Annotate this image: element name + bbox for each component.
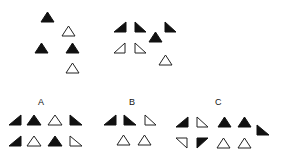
filled-triangle-icon — [8, 114, 22, 126]
filled-triangle-icon — [40, 11, 55, 23]
outline-triangle-icon — [113, 42, 126, 54]
outline-triangle-icon — [158, 54, 173, 66]
outline-triangle-icon — [134, 42, 147, 54]
outline-triangle-icon — [47, 114, 63, 126]
option-label-a: A — [38, 98, 44, 107]
option-label-c: C — [215, 98, 222, 107]
filled-triangle-icon — [103, 114, 117, 126]
filled-triangle-icon — [134, 21, 147, 33]
filled-triangle-icon — [175, 116, 189, 128]
option-label-b: B — [129, 98, 135, 107]
filled-triangle-icon — [237, 116, 252, 128]
outline-triangle-icon — [116, 134, 131, 146]
outline-triangle-icon — [144, 114, 157, 126]
outline-triangle-icon — [216, 137, 231, 149]
filled-triangle-icon — [69, 114, 83, 126]
outline-triangle-icon — [61, 25, 76, 37]
filled-triangle-icon — [196, 137, 209, 149]
filled-triangle-icon — [113, 21, 127, 33]
triangle-puzzle-diagram: A B C — [0, 0, 282, 159]
filled-triangle-icon — [26, 114, 42, 126]
outline-triangle-icon — [237, 137, 252, 149]
outline-triangle-icon — [65, 62, 80, 74]
outline-triangle-icon — [196, 116, 209, 128]
filled-triangle-icon — [148, 31, 163, 43]
filled-triangle-icon — [164, 21, 177, 33]
outline-triangle-icon — [175, 137, 188, 149]
filled-triangle-icon — [123, 114, 137, 126]
filled-triangle-icon — [65, 42, 80, 54]
outline-triangle-icon — [69, 135, 83, 147]
outline-triangle-icon — [137, 134, 152, 146]
filled-triangle-icon — [8, 135, 22, 147]
filled-triangle-icon — [47, 135, 63, 147]
filled-triangle-icon — [256, 124, 270, 136]
filled-triangle-icon — [217, 116, 232, 128]
filled-triangle-icon — [34, 42, 49, 54]
outline-triangle-icon — [26, 135, 42, 147]
